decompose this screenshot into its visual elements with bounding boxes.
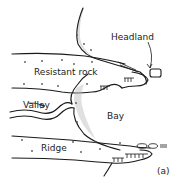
coastal-landform-diagram <box>0 0 185 183</box>
label-resistant-rock: Resistant rock <box>34 68 98 77</box>
label-panel-a: (a) <box>157 167 170 176</box>
ridge-top-edge <box>12 136 150 148</box>
cliff-hatching-upper <box>118 62 138 72</box>
lower-cliff <box>104 163 112 176</box>
label-headland: Headland <box>111 33 154 42</box>
ridge-cliff-hatching <box>112 154 148 162</box>
headland-tip <box>122 72 148 88</box>
rock-texture-dots <box>21 34 121 153</box>
label-bay: Bay <box>107 112 124 121</box>
label-ridge: Ridge <box>41 144 67 153</box>
headland-arrow <box>148 42 152 68</box>
headland-stack <box>150 69 161 77</box>
label-valley: Valley <box>23 101 50 110</box>
